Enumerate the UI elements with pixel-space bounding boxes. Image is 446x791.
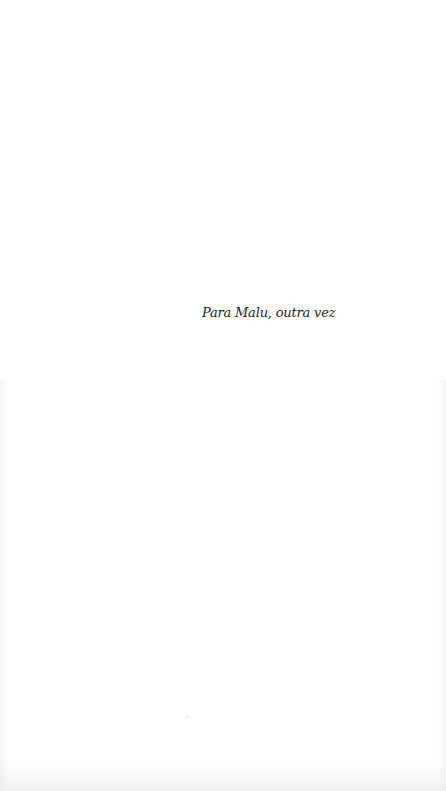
page-edge-shadow-left (0, 380, 8, 791)
page-edge-shadow-right (438, 380, 446, 791)
book-page: Para Malu, outra vez (0, 0, 446, 791)
scan-speck (186, 716, 188, 718)
page-edge-shadow-bottom (0, 763, 446, 791)
dedication-text: Para Malu, outra vez (202, 305, 335, 320)
